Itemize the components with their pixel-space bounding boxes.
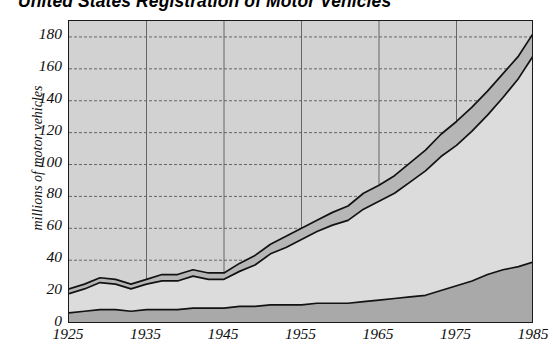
x-axis-tick-label: 1935 [106, 325, 186, 343]
x-tick-text: 1965 [363, 325, 394, 342]
x-tick-text: 1975 [440, 325, 471, 342]
y-tick-text: 180 [39, 25, 62, 42]
x-tick-text: 1955 [285, 325, 316, 342]
y-tick-text: 80 [47, 184, 63, 201]
y-axis-tick-label: 140 [0, 89, 62, 107]
y-tick-text: 120 [39, 121, 62, 138]
x-tick-text: 1925 [53, 325, 84, 342]
x-tick-text: 1945 [208, 325, 239, 342]
x-axis-tick-label: 1965 [338, 325, 418, 343]
x-axis-tick-label: 1975 [416, 325, 496, 343]
y-axis-tick-label: 80 [0, 184, 62, 202]
y-tick-text: 60 [47, 216, 63, 233]
stacked-area-plot [69, 21, 533, 323]
y-axis-tick-label: 40 [0, 248, 62, 266]
x-axis-tick-label: 1925 [28, 325, 108, 343]
y-tick-text: 100 [39, 153, 62, 170]
y-axis-tick-label: 60 [0, 216, 62, 234]
y-tick-text: 40 [47, 248, 63, 265]
x-axis-tick-label: 1945 [183, 325, 263, 343]
y-axis-tick-label: 120 [0, 121, 62, 139]
x-axis-tick-label: 1955 [261, 325, 341, 343]
y-tick-text: 20 [47, 280, 63, 297]
y-axis-tick-label: 100 [0, 153, 62, 171]
x-tick-text: 1935 [130, 325, 161, 342]
y-axis-tick-label: 160 [0, 57, 62, 75]
y-tick-text: 160 [39, 57, 62, 74]
chart-title: United States Registration of Motor Vehi… [18, 0, 391, 12]
x-axis-tick-label: 1985 [493, 325, 553, 343]
area-bands [69, 32, 533, 323]
plot-area [68, 20, 533, 323]
x-tick-text: 1985 [518, 325, 549, 342]
y-axis-tick-label: 20 [0, 280, 62, 298]
y-axis-tick-label: 180 [0, 25, 62, 43]
y-tick-text: 140 [39, 89, 62, 106]
